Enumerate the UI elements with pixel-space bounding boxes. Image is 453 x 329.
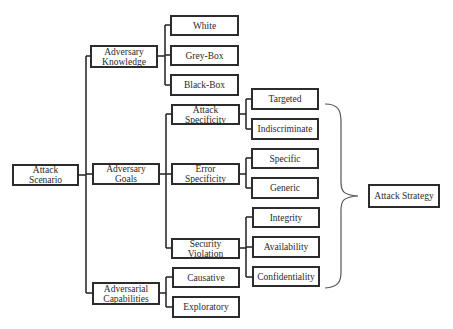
node-attack-strategy: Attack Strategy	[368, 184, 440, 208]
node-availability: Availability	[252, 236, 320, 258]
node-adversary-goals: Adversary Goals	[92, 163, 160, 185]
node-security-violation: Security Violation	[171, 238, 240, 259]
node-attack-scenario: Attack Scenario	[12, 164, 79, 186]
node-exploratory: Exploratory	[172, 296, 240, 318]
node-generic: Generic	[251, 177, 319, 199]
node-adversary-knowledge: Adversary Knowledge	[90, 45, 158, 68]
node-integrity: Integrity	[252, 207, 320, 228]
node-targeted: Targeted	[251, 88, 319, 110]
node-black-box: Black-Box	[170, 74, 239, 96]
node-adversarial-capabilities: Adversarial Capabilities	[92, 282, 160, 305]
node-error-specificity: Error Specificity	[171, 163, 240, 185]
node-confidentiality: Confidentiality	[252, 266, 320, 287]
node-grey-box: Grey-Box	[170, 45, 239, 66]
attack-taxonomy-diagram: Attack Scenario Adversary Knowledge Adve…	[0, 0, 453, 329]
node-attack-specificity: Attack Specificity	[171, 104, 240, 125]
node-causative: Causative	[172, 267, 240, 288]
node-specific: Specific	[251, 148, 319, 169]
curly-brace	[325, 104, 358, 288]
node-white: White	[170, 15, 239, 36]
node-indiscriminate: Indiscriminate	[251, 118, 319, 140]
